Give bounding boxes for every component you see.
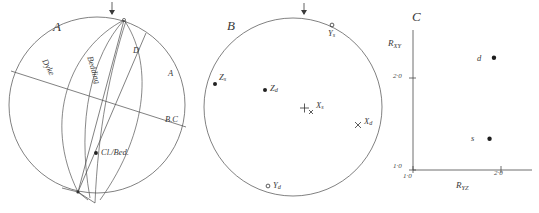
point-xd-marker — [355, 122, 361, 128]
point-ys-label-sub: s — [333, 31, 335, 38]
point-zs-label-sub: s — [224, 75, 226, 82]
point-xd-label: Xd — [364, 116, 372, 126]
point-xs-marker — [300, 104, 313, 115]
point-zd-marker — [263, 88, 267, 92]
y-tick-label-1-0: 1·0 — [393, 162, 402, 170]
d-axis-label: D — [133, 45, 139, 55]
point-zs-marker — [213, 82, 217, 86]
y-axis-label: RXY — [388, 38, 401, 49]
point-d-marker — [492, 56, 496, 60]
bc-intersection-label: B.C — [165, 114, 178, 124]
y-tick-label-2-0: 2·0 — [393, 72, 402, 80]
angle-wedge — [62, 188, 88, 200]
primitive-circle — [204, 18, 382, 196]
point-xd-label-sub: d — [369, 119, 372, 126]
point-ys-marker — [330, 23, 334, 27]
x-tick-label-2-0: 2·0 — [494, 169, 503, 177]
x-tick-label-1-0: 1·0 — [403, 172, 412, 180]
north-arrow-icon — [109, 2, 115, 15]
point-ys-label: Ys — [328, 28, 335, 38]
point-xs-label-sub: s — [321, 103, 323, 110]
point-s-marker — [487, 137, 491, 141]
point-yd-label-sub: d — [278, 183, 281, 190]
point-zd-label-sub: d — [275, 86, 278, 93]
panel-b-letter: B — [227, 18, 235, 34]
x-axis-label: RYZ — [456, 180, 469, 191]
panel-b-drawing — [190, 0, 380, 213]
bottom-intersection-marker — [76, 190, 79, 193]
cleavage-bedding-point-marker — [94, 151, 98, 155]
point-yd-label: Yd — [273, 180, 281, 190]
cleavage-bedding-intersection-label: Cl./Bed. — [101, 147, 129, 157]
panel-b-stereonet: B Ys Zs Zd Xs Xd Yd — [190, 0, 380, 213]
point-d-label: d — [477, 53, 481, 63]
structural-geology-figure: A Dyke Bedding D A B.C Cl./Bed. — [0, 0, 539, 213]
a-axis-label: A — [168, 68, 173, 78]
point-zs-label: Zs — [219, 72, 226, 82]
panel-a-stereonet: A Dyke Bedding D A B.C Cl./Bed. — [0, 0, 190, 213]
point-s-label: s — [471, 133, 474, 143]
panel-a-drawing — [0, 0, 190, 213]
point-yd-marker — [266, 184, 270, 188]
x-axis-label-sub: YZ — [462, 184, 469, 191]
radial-line-1 — [78, 20, 124, 192]
north-arrow-icon — [301, 3, 307, 15]
panel-c-letter: C — [412, 9, 421, 25]
y-axis-label-sub: XY — [394, 42, 401, 49]
point-xs-label: Xs — [316, 100, 324, 110]
point-zd-label: Zd — [270, 83, 278, 93]
panel-a-letter: A — [53, 19, 61, 35]
panel-c-flinn-plot: C RXY RYZ 2·0 1·0 1·0 2·0 d s — [380, 0, 539, 213]
